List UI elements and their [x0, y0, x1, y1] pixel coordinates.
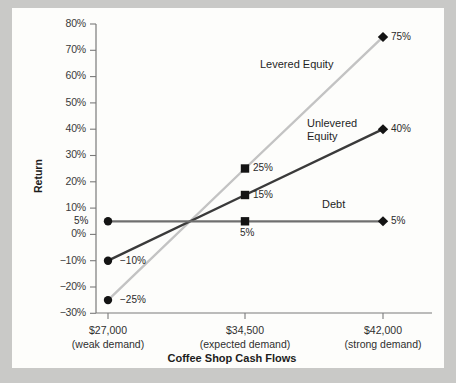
- chart-figure: 80% 70% 60% 50% 40% 30% 20% 10% 0% −10% …: [12, 8, 444, 368]
- series-label-levered-equity: Levered Equity: [260, 58, 333, 71]
- point-label-levered-expected: 25%: [253, 162, 273, 173]
- marker-unlevered-strong: [378, 124, 388, 134]
- x-tick-label-strong-value: $42,000: [318, 324, 448, 337]
- y-tick-label-50: 50%: [46, 96, 86, 108]
- marker-debt-weak: [104, 217, 112, 225]
- point-label-debt-strong: 5%: [391, 215, 405, 226]
- plot-area: 80% 70% 60% 50% 40% 30% 20% 10% 0% −10% …: [12, 8, 444, 368]
- y-tick-label-20: 20%: [46, 175, 86, 187]
- y-tick-label-minus-30: −30%: [40, 306, 86, 318]
- marker-debt-strong: [378, 216, 388, 226]
- y-tick-label-80: 80%: [46, 17, 86, 29]
- series-label-debt: Debt: [322, 198, 345, 211]
- marker-unlevered-weak: [104, 257, 112, 265]
- marker-debt-expected: [241, 217, 249, 225]
- y-tick-label-30: 30%: [46, 148, 86, 160]
- x-tick-label-expected-sub: (expected demand): [175, 338, 315, 351]
- x-axis-title: Coffee Shop Cash Flows: [142, 352, 322, 364]
- series-label-unlevered-equity-line2: Equity: [307, 130, 338, 143]
- point-label-debt-expected: 5%: [240, 227, 254, 238]
- y-tick-label-10: 10%: [46, 201, 86, 213]
- marker-levered-expected: [241, 164, 249, 172]
- y-tick-label-minus-20: −20%: [40, 280, 86, 292]
- x-tick-label-weak-sub: (weak demand): [48, 338, 168, 351]
- marker-unlevered-expected: [241, 191, 249, 199]
- x-axis-ticks: [108, 313, 383, 319]
- x-tick-label-expected-value: $34,500: [175, 324, 315, 337]
- point-label-levered-strong: 75%: [391, 31, 411, 42]
- y-tick-label-70: 70%: [46, 43, 86, 55]
- x-tick-label-strong-sub: (strong demand): [318, 338, 448, 351]
- y-tick-label-40: 40%: [46, 122, 86, 134]
- point-label-debt-weak: 5%: [74, 215, 88, 226]
- y-tick-label-0: 0%: [46, 227, 86, 239]
- y-axis-title: Return: [32, 159, 44, 193]
- point-label-unlevered-weak: −10%: [120, 255, 146, 266]
- y-tick-label-60: 60%: [46, 69, 86, 81]
- series-label-unlevered-equity-line1: Unlevered: [307, 117, 357, 130]
- y-axis-ticks: [90, 24, 96, 313]
- x-tick-label-weak-value: $27,000: [48, 324, 168, 337]
- marker-levered-weak: [104, 296, 112, 304]
- point-label-levered-weak: −25%: [120, 294, 146, 305]
- y-tick-label-minus-10: −10%: [40, 254, 86, 266]
- point-label-unlevered-strong: 40%: [391, 123, 411, 134]
- point-label-unlevered-expected: 15%: [253, 189, 273, 200]
